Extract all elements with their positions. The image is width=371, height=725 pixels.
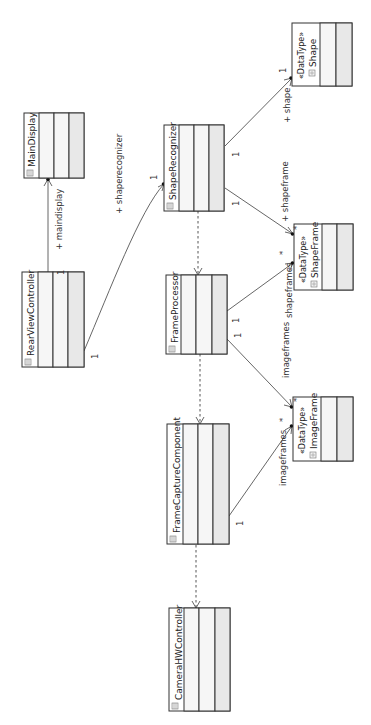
datatype-icon: [311, 281, 317, 287]
role-label-shapeframes: shapeframes: [284, 262, 294, 318]
datatype-imageframe[interactable]: «DataType» ImageFrame: [293, 392, 353, 461]
class-camerahwcontroller[interactable]: CameraHWController: [169, 604, 230, 711]
class-framecapturecomponent[interactable]: FrameCaptureComponent: [167, 416, 229, 544]
stereotype-label: «DataType»: [298, 407, 307, 454]
role-label-imageframes-fp: imageframes: [281, 321, 291, 378]
role-label-maindisplay: + maindisplay: [54, 189, 64, 250]
multiplicity-shape-target: 1: [278, 68, 288, 73]
class-icon: [27, 170, 33, 176]
class-name: ShapeRecognizer: [168, 122, 178, 200]
multiplicity-imageframes-fcc-source: 1: [235, 521, 245, 526]
class-icon: [167, 203, 173, 209]
class-name: FrameCaptureComponent: [172, 416, 182, 533]
dependency-frameprocessor-framecapture[interactable]: [196, 354, 204, 424]
datatype-icon: [309, 70, 315, 76]
class-icon: [172, 703, 178, 709]
class-maindisplay[interactable]: MainDisplay: [24, 112, 84, 178]
multiplicity-imageframes-fcc-target: *: [278, 418, 288, 422]
datatype-shape[interactable]: «DataType» Shape: [292, 23, 352, 86]
class-icon: [170, 536, 176, 542]
multiplicity-imageframes-fp-target: *: [292, 398, 302, 402]
class-shaperecognizer[interactable]: ShapeRecognizer: [164, 122, 224, 211]
multiplicity-rearview-maindisplay: 1: [56, 270, 66, 275]
multiplicity-shape-source: 1: [231, 152, 241, 157]
dependency-framecapture-camerahw[interactable]: [192, 545, 200, 608]
datatype-shapeframe[interactable]: «DataType» ShapeFrame: [294, 221, 353, 290]
class-name: MainDisplay: [27, 112, 37, 167]
multiplicity-shapeframe-target: *: [292, 226, 302, 230]
multiplicity-shaperecognizer-target: 1: [149, 175, 159, 180]
datatype-name: ShapeFrame: [310, 221, 320, 278]
multiplicity-imageframes-fp-source: 1: [233, 333, 243, 338]
multiplicity-shapeframes-source: 1: [231, 318, 241, 323]
class-icon: [169, 346, 175, 352]
class-rearviewcontroller[interactable]: RearViewController: [22, 269, 84, 367]
class-icon: [25, 359, 31, 365]
role-label-shape: + shape: [282, 88, 292, 123]
class-name: FrameProcessor: [170, 271, 180, 343]
class-frameprocessor[interactable]: FrameProcessor: [166, 271, 227, 354]
stereotype-label: «DataType»: [297, 32, 306, 79]
uml-class-diagram: MainDisplay RearViewController ShapeReco…: [0, 0, 371, 725]
datatype-name: ImageFrame: [309, 392, 319, 449]
role-label-shapeframe: + shapeframe: [280, 161, 290, 222]
association-maindisplay[interactable]: [44, 178, 52, 272]
multiplicity-shapeframe-source: 1: [231, 201, 241, 206]
role-label-shaperecognizer: + shaperecognizer: [114, 133, 124, 214]
datatype-name: Shape: [308, 38, 318, 67]
dependency-shaperecognizer-frameprocessor[interactable]: [194, 211, 202, 275]
class-name: RearViewController: [26, 269, 36, 356]
stereotype-label: «DataType»: [299, 236, 308, 283]
class-name: CameraHWController: [174, 604, 184, 700]
role-label-imageframes-fcc: imageframes: [278, 429, 288, 486]
association-shaperecognizer[interactable]: [84, 182, 165, 351]
multiplicity-shapeframes-target: *: [278, 251, 288, 255]
datatype-icon: [310, 452, 316, 458]
multiplicity-rearview-source: 1: [90, 354, 100, 359]
